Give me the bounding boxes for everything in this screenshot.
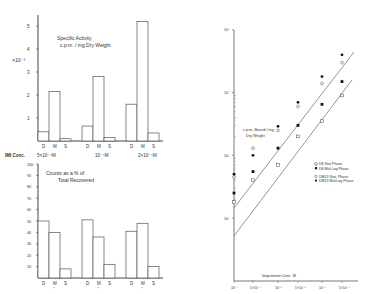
y-tick-labels: 12345 <box>27 24 38 121</box>
legend-label: DM13 Mid Log Phase <box>319 179 354 183</box>
y-tick-label: 4 <box>27 47 30 52</box>
filled-square-marker <box>321 103 324 106</box>
asterisk: * <box>142 287 144 291</box>
bar-label: D <box>86 144 90 149</box>
filled-square-marker <box>277 147 280 150</box>
filled-circle-marker <box>321 75 324 78</box>
open-circle-marker <box>315 175 317 177</box>
y-tick-label: 2 <box>27 93 30 98</box>
filled-circle-marker <box>252 154 255 157</box>
bar-label: S <box>64 281 67 286</box>
y-tick-label: 1 <box>27 116 30 121</box>
asterisk: * <box>98 287 100 291</box>
bar-m <box>49 92 60 141</box>
chart-title-line1: Counts as a % of <box>46 170 85 176</box>
x-tick-labels: 10⁻⁷5×10⁻⁷10⁻⁶5×10⁻⁶10⁻⁵5×10⁻⁵ <box>231 281 351 290</box>
bar-label: M <box>141 281 145 286</box>
percent-recovered-chart: 102030405060708090100 Counts as a % of T… <box>27 163 163 292</box>
bar-s <box>104 138 115 141</box>
y-tick-label: 60 <box>27 208 31 212</box>
open-square-marker <box>341 94 344 97</box>
bar-label: S <box>152 281 155 286</box>
bar-label: M <box>97 144 101 149</box>
filled-circle-marker <box>341 53 344 56</box>
open-circle-marker <box>341 61 344 64</box>
y-tick-label: 10² <box>224 217 230 221</box>
bar-m <box>137 21 148 141</box>
open-square-marker <box>315 163 317 165</box>
open-square-marker <box>277 164 280 167</box>
filled-circle-marker <box>277 125 280 128</box>
open-square-marker <box>297 135 300 138</box>
open-circle-marker <box>233 176 236 179</box>
x-axis-label: Imipramine Conc. M <box>262 274 296 278</box>
y-tick-label: 10³ <box>224 154 230 158</box>
y-tick-labels: 102030405060708090100 <box>27 163 38 270</box>
conc-value-2: 10⁻⁵M <box>95 153 109 158</box>
bar-label: S <box>108 281 111 286</box>
concentration-row: IMI Conc. 5×10⁻⁶M 10⁻⁵M 2×10⁻⁵M <box>5 153 157 158</box>
open-square-marker <box>233 201 236 204</box>
open-square-marker <box>321 120 324 123</box>
y-tick-label: 3 <box>27 70 30 75</box>
y-tick-labels: 10²10³10⁴10⁵ <box>224 28 234 220</box>
y-tick-label: 30 <box>27 242 31 246</box>
bars <box>38 220 159 278</box>
y-scale-label: ×10⁻³ <box>12 57 25 63</box>
asterisk: * <box>54 287 56 291</box>
filled-square-marker <box>315 167 317 169</box>
y-tick-label: 20 <box>27 254 31 258</box>
bar-d <box>126 104 137 141</box>
y-tick-label: 10⁵ <box>224 28 230 32</box>
bar-label: D <box>130 281 134 286</box>
open-circle-marker <box>252 147 255 150</box>
bar-label: S <box>64 144 67 149</box>
bar-s <box>104 264 115 278</box>
bar-label: M <box>141 144 145 149</box>
bar-d <box>38 221 49 278</box>
y-tick-label: 10⁴ <box>224 91 230 95</box>
bar-s <box>60 139 71 141</box>
x-tick-label: 5×10⁻⁵ <box>339 286 351 290</box>
bar-s <box>148 133 159 141</box>
bar-m <box>93 77 104 141</box>
y-tick-label: 10 <box>27 265 31 269</box>
y-tick-label: 90 <box>27 174 31 178</box>
y-tick-label: 70 <box>27 197 31 201</box>
bar-label: D <box>42 144 46 149</box>
conc-value-3: 2×10⁻⁵M <box>138 153 157 158</box>
bar-m <box>137 223 148 278</box>
filled-circle-marker <box>297 101 300 104</box>
bar-d <box>82 220 93 278</box>
y-tick-label: 5 <box>27 24 30 29</box>
y-tick-label: 100 <box>27 163 33 167</box>
bar-d <box>38 132 49 141</box>
y-tick-label: 50 <box>27 220 31 224</box>
chart-title-line2: Total Recovered <box>58 177 94 183</box>
bar-label: M <box>53 281 57 286</box>
chart-title-line2: c.p.m. / mg Dry Weight <box>60 42 111 48</box>
bar-s <box>148 267 159 278</box>
x-tick-label: 5×10⁻⁷ <box>250 286 262 290</box>
bar-label: D <box>42 281 46 286</box>
filled-circle-marker <box>233 173 236 176</box>
legend: D8 Stat PhaseD8 Mid Log PhaseDM13 Stat. … <box>315 162 354 183</box>
inner-label-line2: Dry Weight <box>246 134 266 138</box>
open-square-marker <box>252 179 255 182</box>
legend-label: D8 Mid Log Phase <box>319 167 349 171</box>
binding-scatter-chart: 10²10³10⁴10⁵ 10⁻⁷5×10⁻⁷10⁻⁶5×10⁻⁶10⁻⁵5×1… <box>224 28 358 290</box>
y-tick-label: 80 <box>27 185 31 189</box>
x-tick-label: 10⁻⁶ <box>275 286 283 290</box>
bar-m <box>93 237 104 278</box>
y-tick-label: 40 <box>27 231 31 235</box>
specific-activity-chart: 12345 ×10⁻³ Specific Activity c.p.m. / m… <box>12 15 163 149</box>
bar-d <box>82 126 93 141</box>
bar-labels: DMSDMSDMS <box>42 144 155 149</box>
bar-d <box>126 231 137 278</box>
open-circle-marker <box>321 82 324 85</box>
x-tick-label: 10⁻⁵ <box>319 286 327 290</box>
fit-line-lower <box>234 80 352 236</box>
x-tick-label: 10⁻⁷ <box>231 286 239 290</box>
filled-square-marker <box>297 124 300 127</box>
bar-s <box>60 269 71 278</box>
